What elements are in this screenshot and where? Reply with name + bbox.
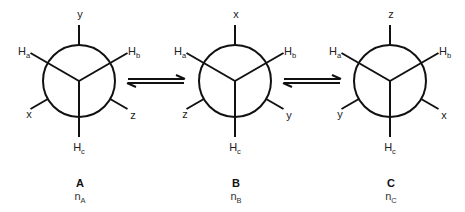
back-bond-bottom-left [187, 99, 204, 109]
front-bond-top-right [79, 53, 127, 81]
label-hb: Hb [284, 45, 296, 60]
conformer-population: nB [230, 190, 241, 205]
label-hb: Hb [439, 45, 451, 60]
equilibrium-arrow-a-b [127, 75, 185, 87]
conformer-population: nA [74, 190, 85, 205]
conformer-title: B [232, 177, 240, 189]
back-bond-bottom-left [342, 99, 359, 109]
front-bond-top-left [31, 53, 79, 81]
equilibrium-arrow-b-c [283, 75, 341, 87]
back-bond-bottom-right [110, 99, 127, 109]
back-bond-bottom-right [266, 99, 283, 109]
label-hc: Hc [384, 141, 396, 156]
conformer-a: HaHbHcyxzAnA [18, 8, 140, 205]
conformer-title: A [76, 177, 84, 189]
label-ha: Ha [18, 45, 31, 60]
label-back-top: z [388, 8, 394, 20]
label-back-bottom-left: y [337, 108, 343, 120]
label-back-top: x [233, 8, 239, 20]
label-back-top: y [77, 8, 83, 20]
label-hc: Hc [229, 141, 241, 156]
back-bond-bottom-left [31, 99, 48, 109]
label-hb: Hb [128, 45, 140, 60]
newman-diagram: HaHbHcyxzAnAHaHbHcxzyBnBHaHbHczyxCnC [0, 0, 465, 212]
label-back-bottom-right: y [286, 109, 292, 121]
conformer-c: HaHbHczyxCnC [329, 8, 451, 205]
front-bond-top-left [187, 53, 235, 81]
label-hc: Hc [73, 141, 85, 156]
label-back-bottom-left: x [26, 108, 32, 120]
label-ha: Ha [329, 45, 342, 60]
front-bond-top-right [390, 53, 438, 81]
front-bond-top-left [342, 53, 390, 81]
front-bond-top-right [235, 53, 283, 81]
conformer-population: nC [385, 190, 397, 205]
label-back-bottom-left: z [182, 108, 188, 120]
conformer-b: HaHbHcxzyBnB [174, 8, 296, 205]
conformer-title: C [387, 177, 395, 189]
label-back-bottom-right: z [130, 109, 136, 121]
back-bond-bottom-right [421, 99, 438, 109]
label-ha: Ha [174, 45, 187, 60]
label-back-bottom-right: x [441, 109, 447, 121]
